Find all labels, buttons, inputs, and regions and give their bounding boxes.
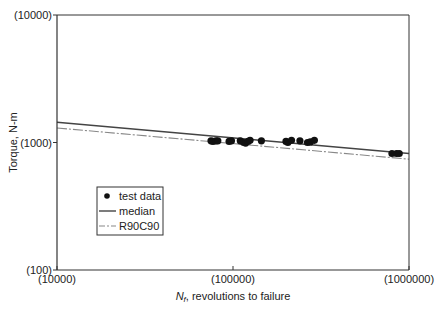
legend: test datamedianR90C90: [97, 187, 163, 235]
y-tick-label: (1000): [20, 137, 52, 149]
x-axis-label: Nf, revolutions to failure: [176, 290, 291, 304]
data-point: [214, 137, 221, 144]
data-point: [311, 137, 318, 144]
y-axis-label: Torque, N-m: [7, 112, 19, 173]
x-tick-label: (100000): [211, 273, 255, 285]
x-tick-label: (1000000): [384, 273, 434, 285]
axes: (100)(1000)(10000)(10000)(100000)(100000…: [7, 9, 434, 304]
chart: (100)(1000)(10000)(10000)(100000)(100000…: [0, 0, 440, 313]
legend-marker-points: [104, 193, 110, 199]
data-point: [228, 137, 235, 144]
data-point: [258, 137, 265, 144]
y-tick-label: (10000): [14, 9, 52, 21]
plot-area: [57, 122, 409, 159]
x-tick-label: (10000): [38, 273, 76, 285]
data-point: [288, 137, 295, 144]
legend-label: test data: [119, 190, 162, 202]
data-point: [246, 137, 253, 144]
data-point: [396, 150, 403, 157]
data-point: [296, 137, 303, 144]
legend-label: median: [119, 205, 155, 217]
legend-label: R90C90: [119, 220, 159, 232]
